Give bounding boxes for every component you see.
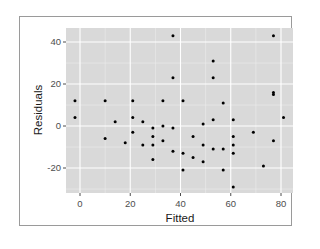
data-point: [161, 125, 164, 128]
data-point: [131, 116, 134, 119]
data-point: [202, 143, 205, 146]
x-tick-label: 60: [225, 198, 236, 209]
data-point: [131, 131, 134, 134]
data-point: [141, 120, 144, 123]
data-point: [104, 99, 107, 102]
data-point: [161, 139, 164, 142]
data-point: [151, 135, 154, 138]
data-point: [212, 118, 215, 121]
data-point: [73, 99, 76, 102]
data-point: [232, 185, 235, 188]
data-point: [151, 143, 154, 146]
data-point: [73, 116, 76, 119]
data-point: [192, 135, 195, 138]
x-tick-label: 40: [175, 198, 186, 209]
data-point: [232, 143, 235, 146]
data-point: [212, 148, 215, 151]
data-point: [182, 169, 185, 172]
data-point: [104, 137, 107, 140]
data-point: [222, 101, 225, 104]
data-point: [161, 99, 164, 102]
data-point: [151, 127, 154, 130]
data-point: [171, 150, 174, 153]
data-point: [232, 118, 235, 121]
data-point: [272, 34, 275, 37]
data-point: [272, 93, 275, 96]
x-tick-label: 80: [276, 198, 287, 209]
data-point: [171, 76, 174, 79]
data-point: [262, 164, 265, 167]
data-point: [114, 120, 117, 123]
scatter-chart: -2002040 020406080 Fitted Residuals: [0, 0, 320, 249]
x-tick-label: 0: [77, 198, 82, 209]
data-point: [171, 127, 174, 130]
data-point: [282, 116, 285, 119]
x-tick-label: 20: [125, 198, 136, 209]
y-axis-title: Residuals: [32, 85, 44, 136]
data-point: [212, 59, 215, 62]
x-axis: 020406080: [77, 193, 286, 209]
data-point: [171, 34, 174, 37]
data-point: [202, 122, 205, 125]
x-axis-title: Fitted: [166, 212, 195, 224]
data-point: [151, 158, 154, 161]
y-tick-label: 20: [50, 78, 61, 89]
data-point: [141, 143, 144, 146]
y-tick-label: 0: [56, 120, 61, 131]
data-point: [182, 99, 185, 102]
data-point: [182, 152, 185, 155]
y-tick-label: 40: [50, 36, 61, 47]
data-point: [252, 131, 255, 134]
data-point: [222, 148, 225, 151]
data-point: [192, 156, 195, 159]
data-point: [272, 139, 275, 142]
data-point: [124, 141, 127, 144]
data-point: [131, 99, 134, 102]
data-point: [212, 76, 215, 79]
data-point: [222, 169, 225, 172]
data-point: [202, 160, 205, 163]
y-axis: -2002040: [47, 36, 66, 173]
data-point: [232, 152, 235, 155]
y-tick-label: -20: [47, 162, 61, 173]
data-point: [232, 135, 235, 138]
